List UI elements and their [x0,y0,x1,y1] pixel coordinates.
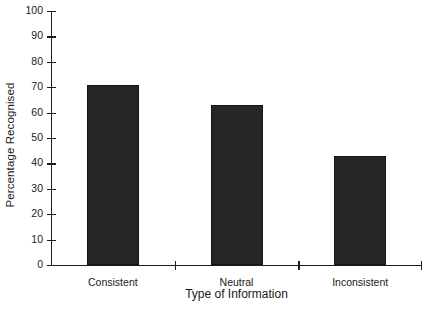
y-axis-tick-mark [47,214,56,215]
x-axis-line [51,265,422,266]
y-axis-tick-label: 0 [13,258,43,271]
y-axis-tick-label: 40 [13,156,43,169]
y-axis-tick-label: 50 [13,131,43,144]
x-axis-tick-mark [421,261,422,270]
y-axis-tick-mark [47,189,56,190]
y-axis-tick-mark [47,138,56,139]
y-axis-tick-mark [47,62,56,63]
y-axis-tick-label: 60 [13,106,43,119]
y-axis-tick-label: 30 [13,182,43,195]
y-axis-tick-mark [47,87,56,88]
y-axis-tick-label: 90 [13,29,43,42]
y-axis-tick-label: 10 [13,233,43,246]
y-axis-tick-label: 100 [13,4,43,17]
y-axis-tick-mark [47,113,56,114]
cropped-caption-fragment [10,306,420,314]
y-axis-tick-mark [47,265,56,266]
y-axis-tick-mark [47,240,56,241]
x-axis-tick-mark [298,261,299,270]
bar [87,85,139,265]
bar [334,156,386,265]
y-axis-tick-mark [47,11,56,12]
bar [211,105,263,265]
plot-area: 0102030405060708090100 ConsistentNeutral… [51,11,422,266]
x-axis-title: Type of Information [51,287,422,302]
y-axis-tick-mark [47,163,56,164]
x-axis-tick-mark [175,261,176,270]
y-axis-tick-label: 80 [13,55,43,68]
y-axis-tick-mark [47,36,56,37]
y-axis-tick-label: 20 [13,207,43,220]
y-axis-tick-label: 70 [13,80,43,93]
bar-chart-figure: Percentage Recognised 010203040506070809… [0,0,430,314]
